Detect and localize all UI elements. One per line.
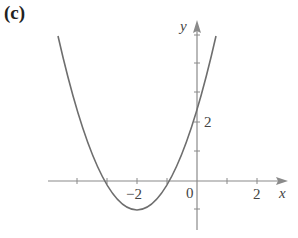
x-tick-label-0: 0: [186, 185, 194, 201]
x-tick-label-2: 2: [253, 186, 261, 202]
x-axis-label: x: [278, 185, 286, 201]
y-axis-label: y: [178, 18, 187, 34]
y-axis: [193, 20, 201, 230]
parabola-chart: y x −2 0 2 2: [0, 0, 298, 238]
x-tick-label-neg2: −2: [126, 186, 142, 202]
y-tick-label-2: 2: [204, 114, 212, 130]
